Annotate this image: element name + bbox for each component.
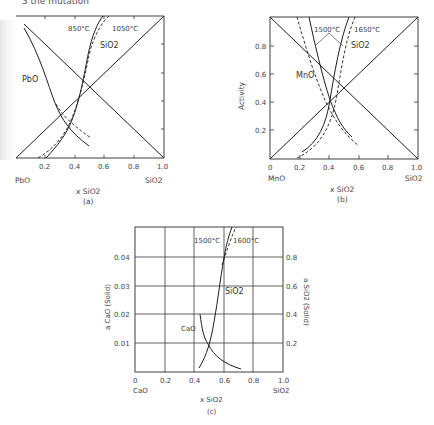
gridlines — [135, 227, 283, 372]
y-tick: 0.8 — [255, 43, 266, 51]
temp-850-label: 850°C — [68, 25, 90, 33]
x-left-endmember: MnO — [268, 174, 285, 183]
plot-frame — [135, 227, 283, 372]
x-tick: 0.6 — [98, 163, 110, 171]
temp-1500-label: 1500°C — [194, 237, 220, 245]
sio2-activity-1500-curve — [199, 227, 232, 368]
mno-species-label: MnO — [296, 71, 314, 80]
temp-leader-lines — [316, 33, 343, 46]
temp-1650-label: 1650°C — [354, 26, 380, 34]
x-axis-label: x SiO2 — [76, 187, 101, 196]
x-tick: 1.0 — [411, 164, 422, 172]
y-right-axis-label: a SiO2 (Solid) — [302, 278, 310, 326]
x-tick: 0.2 — [39, 163, 50, 171]
mno-activity-1650-curve — [297, 17, 359, 146]
y-right-tick: 0.8 — [286, 254, 297, 262]
sio2-species-label: SiO2 — [225, 287, 244, 296]
x-right-endmember: SiO2 — [273, 387, 289, 395]
y-tick: 0.2 — [255, 127, 266, 135]
y-right-tick: 0.2 — [286, 340, 297, 348]
cao-species-label: CaO — [181, 325, 196, 333]
cropped-header-text: 3 the mutation — [22, 0, 89, 6]
y-tick: 0.6 — [255, 71, 267, 79]
x-tick: 1.0 — [157, 163, 168, 171]
x-tick: 0.6 — [219, 377, 231, 385]
y-axis-label: Activity — [237, 81, 246, 110]
x-left-endmember: PbO — [15, 176, 30, 185]
x-right-endmember: SiO2 — [145, 176, 163, 185]
x-tick: 0.4 — [189, 377, 201, 385]
y-left-tick: 0.04 — [114, 254, 130, 262]
panel-b: 1500°C 1650°C SiO2 MnO 0.8 0.6 0.4 0.2 A… — [237, 17, 423, 204]
y-tick: 0.4 — [255, 99, 267, 107]
temp-1600-label: 1600°C — [233, 237, 259, 245]
sio2-activity-1050-curve — [38, 16, 109, 158]
panel-caption: (c) — [207, 408, 217, 416]
x-tick: 1.0 — [278, 377, 289, 385]
panel-a: PbO SiO2 850°C 1050°C 0.2 0.4 0.6 0.8 1.… — [0, 16, 168, 206]
axis-ticks — [270, 46, 418, 159]
x-tick: 0.8 — [382, 164, 393, 172]
panel-caption: (b) — [337, 195, 348, 204]
y-left-tick: 0.01 — [114, 340, 130, 348]
y-left-axis-label: a CaO (Solid) — [104, 284, 112, 330]
panel-c: 1500°C 1600°C SiO2 CaO 0.04 0.03 0.02 0.… — [104, 227, 310, 416]
scan-shadow — [0, 20, 22, 160]
x-tick: 0.2 — [160, 377, 171, 385]
panel-caption: (a) — [83, 197, 94, 206]
x-left-endmember: CaO — [133, 387, 148, 395]
sio2-species-label: SiO2 — [100, 41, 119, 50]
x-right-endmember: SiO2 — [405, 174, 423, 183]
x-tick: 0 — [133, 377, 137, 385]
y-left-tick: 0.02 — [114, 311, 130, 319]
pbo-activity-850-curve — [24, 28, 89, 146]
x-tick: 0.6 — [353, 164, 365, 172]
raoult-pbo-line — [24, 24, 164, 158]
x-axis-label: x SiO2 — [200, 396, 223, 404]
temp-1050-label: 1050°C — [112, 25, 138, 33]
pbo-species-label: PbO — [22, 75, 38, 84]
x-tick: 0.8 — [128, 163, 139, 171]
y-right-tick: 0.6 — [286, 283, 298, 291]
sio2-species-label: SiO2 — [351, 41, 370, 50]
x-tick: 0.8 — [248, 377, 259, 385]
y-right-tick: 0.4 — [286, 311, 298, 319]
x-tick: 0.4 — [323, 164, 335, 172]
x-axis-label: x SiO2 — [330, 185, 355, 194]
temp-1500-label: 1500°C — [314, 26, 340, 34]
x-tick: 0.2 — [294, 164, 305, 172]
x-tick: 0 — [268, 164, 272, 172]
figure: 3 the mutation PbO SiO2 850°C 1050°C — [0, 0, 434, 425]
cao-activity-curve — [200, 314, 241, 369]
y-left-tick: 0.03 — [114, 283, 130, 291]
x-tick: 0.4 — [69, 163, 81, 171]
